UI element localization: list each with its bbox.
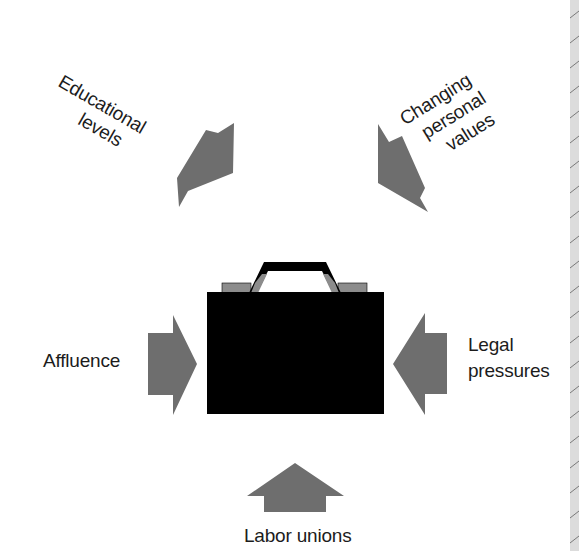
label-legal-pressures: Legal pressures	[468, 332, 550, 384]
page-edge-strip	[570, 0, 579, 551]
label-affluence: Affluence	[43, 349, 120, 372]
arrow-labor-icon	[247, 463, 344, 512]
arrow-educational-icon	[177, 123, 234, 207]
label-labor-unions: Labor unions	[244, 524, 351, 547]
hatch-marks	[570, 0, 579, 551]
arrow-affluence-icon	[148, 315, 197, 415]
forces-diagram: Educational levels Changing personal val…	[0, 0, 579, 551]
arrow-legal-icon	[393, 313, 447, 415]
briefcase-icon	[207, 262, 384, 414]
